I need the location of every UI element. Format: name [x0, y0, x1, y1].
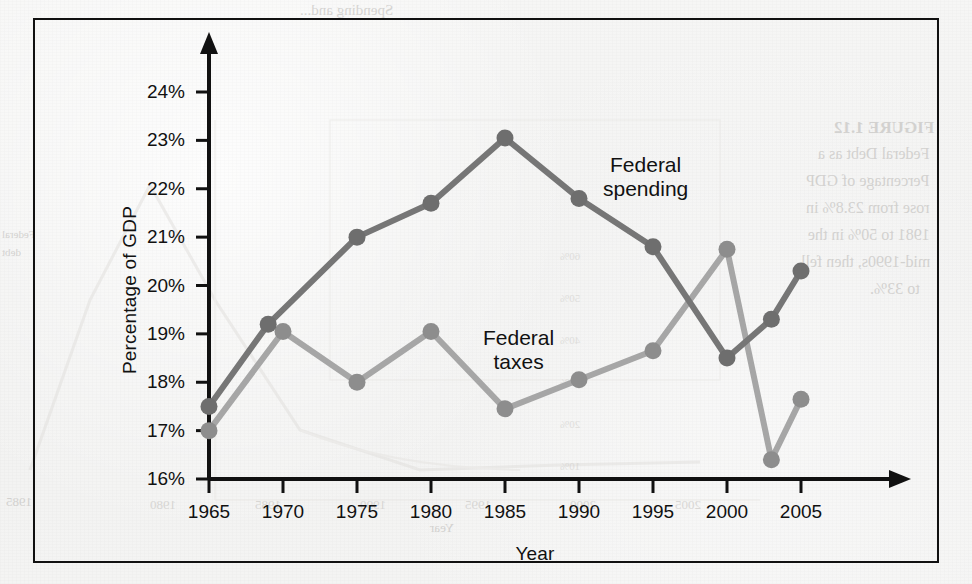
- y-tick-label-21: 21%: [147, 226, 185, 248]
- x-tick-label-1995: 1995: [632, 501, 674, 523]
- data-point-federal-spending-1965: [201, 398, 218, 415]
- bleed-top-text: Spending and...: [300, 2, 393, 19]
- x-tick-label-1965: 1965: [188, 501, 230, 523]
- figure-frame: 16%17%18%19%20%21%22%23%24% 196519701975…: [33, 18, 939, 563]
- data-point-federal-taxes-2000: [719, 241, 736, 258]
- y-tick-label-16: 16%: [147, 468, 185, 490]
- x-tick-label-2000: 2000: [706, 501, 748, 523]
- data-point-federal-spending-1985: [497, 129, 514, 146]
- data-point-federal-spending-1975: [349, 229, 366, 246]
- data-point-federal-taxes-1970: [275, 323, 292, 340]
- data-point-federal-taxes-1990: [571, 371, 588, 388]
- bleed-bottom-left: 1985: [6, 494, 32, 510]
- x-tick-label-2005: 2005: [780, 501, 822, 523]
- x-tick-label-1975: 1975: [336, 501, 378, 523]
- y-tick-label-20: 20%: [147, 275, 185, 297]
- y-axis-title: Percentage of GDP: [119, 206, 141, 374]
- y-tick-label-24: 24%: [147, 81, 185, 103]
- bleed-left-note-1: Federal: [2, 228, 35, 240]
- data-point-federal-taxes-2003: [763, 451, 780, 468]
- chart-plot-area: 16%17%18%19%20%21%22%23%24% 196519701975…: [35, 20, 937, 561]
- data-point-federal-spending-1995: [645, 238, 662, 255]
- data-point-federal-taxes-1980: [423, 323, 440, 340]
- y-tick-label-17: 17%: [147, 420, 185, 442]
- data-point-federal-spending-1969: [260, 316, 277, 333]
- data-point-federal-spending-1980: [423, 195, 440, 212]
- x-tick-label-1985: 1985: [484, 501, 526, 523]
- y-tick-label-23: 23%: [147, 129, 185, 151]
- data-point-federal-taxes-1995: [645, 342, 662, 359]
- data-point-federal-spending-2003: [763, 311, 780, 328]
- y-tick-label-18: 18%: [147, 371, 185, 393]
- x-tick-label-1970: 1970: [262, 501, 304, 523]
- x-tick-label-1980: 1980: [410, 501, 452, 523]
- data-point-federal-taxes-1965: [201, 422, 218, 439]
- y-tick-label-22: 22%: [147, 178, 185, 200]
- series-annotation-federal-spending: Federal spending: [603, 153, 688, 200]
- x-tick-label-1990: 1990: [558, 501, 600, 523]
- data-point-federal-taxes-1975: [349, 374, 366, 391]
- data-point-federal-spending-2000: [719, 350, 736, 367]
- data-point-federal-taxes-2005: [793, 391, 810, 408]
- data-point-federal-taxes-1985: [497, 400, 514, 417]
- bleed-left-note-2: debt: [2, 246, 21, 258]
- y-tick-label-19: 19%: [147, 323, 185, 345]
- series-annotation-federal-taxes: Federal taxes: [483, 326, 554, 373]
- x-axis-title: Year: [515, 543, 554, 565]
- data-point-federal-spending-2005: [793, 262, 810, 279]
- data-point-federal-spending-1990: [571, 190, 588, 207]
